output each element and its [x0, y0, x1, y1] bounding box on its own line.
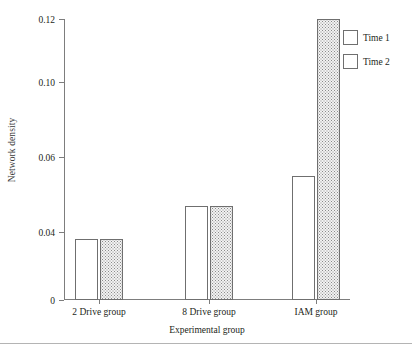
bar-time-1: [75, 239, 98, 300]
chart-legend: Time 1Time 2: [343, 30, 390, 69]
y-axis-title-text: Network density: [7, 118, 17, 183]
legend-swatch-time-1: [343, 30, 358, 45]
y-axis-tick: 0.04: [59, 232, 64, 233]
legend-label: Time 2: [363, 57, 390, 67]
y-axis-line: [64, 19, 65, 300]
bar-time-1: [292, 176, 315, 300]
y-axis-tick-label: 0.06: [38, 153, 55, 163]
legend-label: Time 1: [363, 33, 390, 43]
x-axis-tick: [99, 300, 100, 304]
x-axis-title: Experimental group: [64, 325, 350, 335]
y-axis-tick-label: 0.04: [38, 228, 55, 238]
x-axis-tick: [316, 300, 317, 304]
legend-swatch-time-2: [343, 54, 358, 69]
footer-divider: [0, 343, 412, 344]
y-axis-tick-label: 0.10: [38, 78, 55, 88]
y-axis-tick: 0.10: [59, 82, 64, 83]
plot-area: 0.120.100.060.040 2 Drive group8 Drive g…: [64, 19, 350, 300]
bar-time-2: [100, 239, 123, 300]
y-axis-tick: 0.06: [59, 157, 64, 158]
legend-item: Time 2: [343, 54, 390, 69]
bar-chart-figure: Network density 0.120.100.060.040 2 Driv…: [0, 0, 412, 350]
bar-time-2: [317, 19, 340, 300]
y-axis-tick: 0: [59, 300, 64, 301]
x-axis-tick: [209, 300, 210, 304]
y-axis-tick-label: 0.12: [38, 15, 55, 25]
legend-item: Time 1: [343, 30, 390, 45]
y-axis-tick-label: 0: [50, 296, 55, 306]
bar-time-2: [210, 206, 233, 300]
x-axis-group-label: 2 Drive group: [72, 307, 125, 317]
y-axis-title: Network density: [0, 0, 24, 300]
y-axis-tick: 0.12: [59, 19, 64, 20]
bar-time-1: [185, 206, 208, 300]
x-axis-group-label: IAM group: [294, 307, 337, 317]
x-axis-group-label: 8 Drive group: [182, 307, 235, 317]
